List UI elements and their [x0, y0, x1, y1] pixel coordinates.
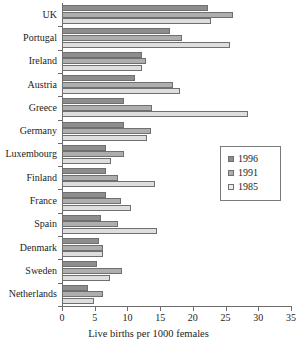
x-axis-tick-label: 30: [253, 312, 263, 323]
bar: [62, 268, 122, 274]
y-axis-tick: [58, 189, 62, 190]
category-group: Netherlands: [62, 283, 291, 306]
y-axis-tick: [58, 213, 62, 214]
bar: [62, 192, 106, 198]
x-axis-tick-label: 15: [155, 312, 165, 323]
bar: [62, 151, 124, 157]
bar: [62, 298, 94, 304]
bar: [62, 18, 211, 24]
bar-chart: UKPortugalIrelandAustriaGreeceGermanyLux…: [0, 0, 297, 348]
y-axis-tick: [58, 283, 62, 284]
bar: [62, 228, 157, 234]
bar: [62, 52, 142, 58]
category-group: Spain: [62, 213, 291, 236]
bar: [62, 168, 106, 174]
bar: [62, 128, 151, 134]
category-group: UK: [62, 3, 291, 26]
y-axis-tick: [58, 236, 62, 237]
category-group: Ireland: [62, 50, 291, 73]
x-axis-title: Live births per 1000 females: [0, 328, 297, 339]
category-group: Austria: [62, 73, 291, 96]
bar: [62, 215, 101, 221]
x-axis-tick: [226, 306, 227, 311]
bar: [62, 105, 152, 111]
x-axis-tick: [258, 306, 259, 311]
y-axis-tick: [58, 143, 62, 144]
category-label: Sweden: [25, 266, 57, 276]
category-label: Netherlands: [9, 289, 57, 299]
y-axis-tick: [58, 73, 62, 74]
y-axis-tick: [58, 166, 62, 167]
bar: [62, 5, 208, 11]
bar: [62, 275, 110, 281]
x-axis-tick-label: 5: [92, 312, 97, 323]
category-label: Spain: [34, 219, 57, 229]
legend-item[interactable]: 1991: [228, 166, 274, 180]
bar: [62, 35, 182, 41]
bar: [62, 42, 230, 48]
bar: [62, 75, 135, 81]
category-label: Germany: [20, 126, 57, 136]
bar: [62, 88, 180, 94]
legend-item-label: 1985: [238, 182, 258, 192]
x-axis-tick: [62, 306, 63, 311]
bar: [62, 158, 111, 164]
bar: [62, 65, 142, 71]
x-axis-tick: [95, 306, 96, 311]
category-label: Luxembourg: [6, 149, 57, 159]
category-label: UK: [43, 10, 57, 20]
medium-gray-swatch: [228, 170, 234, 176]
category-group: Greece: [62, 96, 291, 119]
bar: [62, 221, 118, 227]
legend-item-label: 1991: [238, 168, 258, 178]
x-axis-tick-label: 10: [122, 312, 132, 323]
legend-item[interactable]: 1996: [228, 152, 274, 166]
x-axis-tick: [193, 306, 194, 311]
bar: [62, 82, 173, 88]
category-label: Portugal: [23, 33, 57, 43]
category-label: Denmark: [20, 243, 57, 253]
bar: [62, 205, 131, 211]
y-axis-tick: [58, 306, 62, 307]
bar: [62, 135, 147, 141]
bar: [62, 181, 155, 187]
category-label: Ireland: [29, 56, 57, 66]
bar: [62, 198, 121, 204]
y-axis-tick: [58, 259, 62, 260]
bar: [62, 145, 106, 151]
category-label: Greece: [29, 103, 57, 113]
category-label: Finland: [26, 173, 57, 183]
bar: [62, 245, 103, 251]
bar: [62, 285, 88, 291]
bar: [62, 58, 146, 64]
category-group: Portugal: [62, 26, 291, 49]
bar: [62, 122, 124, 128]
bar: [62, 238, 99, 244]
y-axis-tick: [58, 50, 62, 51]
category-label: France: [30, 196, 57, 206]
chart-legend: 1996 1991 1985: [220, 146, 281, 201]
light-gray-swatch: [228, 184, 234, 190]
bar: [62, 261, 97, 267]
x-axis-tick: [291, 306, 292, 311]
y-axis-tick: [58, 96, 62, 97]
bar: [62, 12, 233, 18]
y-axis-tick: [58, 26, 62, 27]
category-group: Germany: [62, 120, 291, 143]
bar: [62, 111, 248, 117]
legend-item[interactable]: 1985: [228, 180, 274, 194]
x-axis-tick-label: 35: [286, 312, 296, 323]
y-axis-tick: [58, 120, 62, 121]
bar: [62, 291, 103, 297]
category-group: Sweden: [62, 259, 291, 282]
dark-gray-swatch: [228, 156, 234, 162]
bar: [62, 98, 124, 104]
x-axis-tick-label: 20: [188, 312, 198, 323]
legend-item-label: 1996: [238, 154, 258, 164]
bar: [62, 251, 103, 257]
x-axis-tick: [160, 306, 161, 311]
bar: [62, 28, 170, 34]
x-axis-tick: [127, 306, 128, 311]
x-axis-tick-label: 0: [60, 312, 65, 323]
x-axis-tick-label: 25: [221, 312, 231, 323]
